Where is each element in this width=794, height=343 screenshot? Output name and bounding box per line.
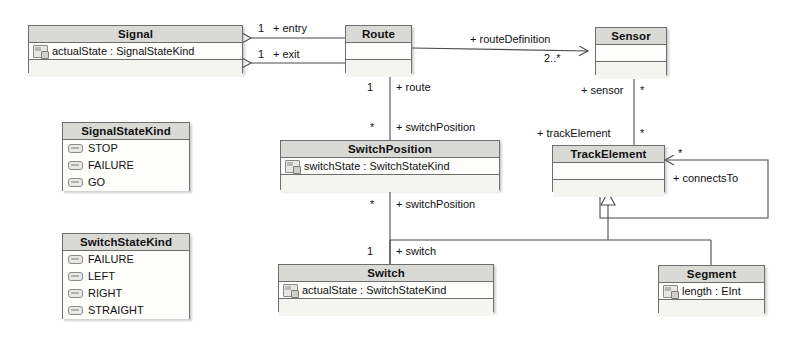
class-name-switchposition: SwitchPosition: [281, 141, 499, 158]
enum-literal-icon: [68, 306, 83, 315]
attribute-label: actualState : SignalStateKind: [52, 43, 194, 60]
attributes-compartment: [346, 43, 411, 60]
enum-literal[interactable]: FAILURE: [63, 251, 189, 268]
class-node-segment[interactable]: Segment length : EInt: [658, 265, 765, 313]
operations-compartment: [346, 60, 411, 77]
multiplicity-sensor: *: [640, 84, 644, 96]
property-icon: [283, 284, 298, 297]
operations-compartment: [596, 62, 666, 79]
operations-compartment: [281, 175, 499, 192]
enum-literal-label: FAILURE: [88, 157, 134, 174]
enum-literal-icon: [68, 161, 83, 170]
class-name-signal: Signal: [29, 26, 242, 43]
enum-name-switchstatekind: SwitchStateKind: [63, 234, 189, 251]
enum-node-switchstatekind[interactable]: SwitchStateKind FAILURE LEFT RIGHT STRAI…: [62, 233, 190, 319]
property-icon: [663, 285, 678, 298]
operations-compartment: [29, 60, 242, 77]
multiplicity-connectsto: *: [678, 147, 682, 159]
role-label-switchposition-lower: + switchPosition: [396, 198, 475, 210]
operations-compartment: [279, 299, 493, 316]
class-name-switch: Switch: [279, 265, 493, 282]
class-name-sensor: Sensor: [596, 28, 666, 45]
attribute-row[interactable]: actualState : SwitchStateKind: [279, 282, 493, 299]
enum-literal-label: LEFT: [88, 268, 115, 285]
multiplicity-trackelement: *: [640, 127, 644, 139]
operations-compartment: [553, 180, 664, 197]
multiplicity-routedefinition: 2..*: [544, 52, 561, 64]
enum-literal[interactable]: RIGHT: [63, 285, 189, 302]
enum-literal-label: STRAIGHT: [88, 302, 144, 319]
enum-name-signalstatekind: SignalStateKind: [63, 123, 189, 140]
role-label-switch: + switch: [396, 245, 436, 257]
class-node-sensor[interactable]: Sensor: [595, 27, 667, 75]
class-node-signal[interactable]: Signal actualState : SignalStateKind: [28, 25, 243, 73]
role-label-connectsto: + connectsTo: [673, 172, 738, 184]
multiplicity-route: 1: [367, 81, 373, 93]
multiplicity-exit: 1: [258, 48, 264, 60]
role-label-route: + route: [396, 81, 431, 93]
role-label-trackelement: + trackElement: [537, 127, 611, 139]
attribute-row[interactable]: length : EInt: [659, 283, 764, 300]
enum-literal-icon: [68, 255, 83, 264]
multiplicity-switch: 1: [367, 245, 373, 257]
enum-literal[interactable]: FAILURE: [63, 157, 189, 174]
class-node-trackelement[interactable]: TrackElement: [552, 145, 665, 192]
role-label-routedefinition: + routeDefinition: [470, 33, 550, 45]
attribute-label: actualState : SwitchStateKind: [302, 282, 446, 299]
role-label-exit: + exit: [273, 48, 300, 60]
class-name-trackelement: TrackElement: [553, 146, 664, 163]
attribute-row[interactable]: switchState : SwitchStateKind: [281, 158, 499, 175]
attributes-compartment: [596, 45, 666, 62]
enum-literal-label: RIGHT: [88, 285, 122, 302]
role-label-sensor: + sensor: [581, 84, 624, 96]
enum-literal[interactable]: STOP: [63, 140, 189, 157]
enum-literal-icon: [68, 289, 83, 298]
enum-literal[interactable]: GO: [63, 174, 189, 191]
attribute-label: length : EInt: [682, 283, 741, 300]
enum-literal-label: FAILURE: [88, 251, 134, 268]
enum-literal[interactable]: STRAIGHT: [63, 302, 189, 319]
multiplicity-switchposition-lower: *: [370, 198, 374, 210]
attributes-compartment: [553, 163, 664, 180]
diagram-canvas: Signal actualState : SignalStateKind Rou…: [0, 0, 794, 343]
role-label-switchposition-upper: + switchPosition: [396, 121, 475, 133]
class-node-route[interactable]: Route: [345, 25, 412, 73]
enum-node-signalstatekind[interactable]: SignalStateKind STOP FAILURE GO: [62, 122, 190, 191]
class-name-route: Route: [346, 26, 411, 43]
class-node-switch[interactable]: Switch actualState : SwitchStateKind: [278, 264, 494, 312]
attribute-row[interactable]: actualState : SignalStateKind: [29, 43, 242, 60]
multiplicity-entry: 1: [258, 22, 264, 34]
attribute-label: switchState : SwitchStateKind: [304, 158, 450, 175]
class-name-segment: Segment: [659, 266, 764, 283]
enum-literal-label: GO: [88, 174, 105, 191]
class-node-switchposition[interactable]: SwitchPosition switchState : SwitchState…: [280, 140, 500, 190]
property-icon: [285, 160, 300, 173]
property-icon: [33, 45, 48, 58]
enum-literal-icon: [68, 178, 83, 187]
operations-compartment: [659, 300, 764, 317]
multiplicity-switchposition-upper: *: [370, 121, 374, 133]
enum-literal-icon: [68, 272, 83, 281]
enum-literal-label: STOP: [88, 140, 118, 157]
enum-literal[interactable]: LEFT: [63, 268, 189, 285]
role-label-entry: + entry: [273, 22, 307, 34]
enum-literal-icon: [68, 144, 83, 153]
